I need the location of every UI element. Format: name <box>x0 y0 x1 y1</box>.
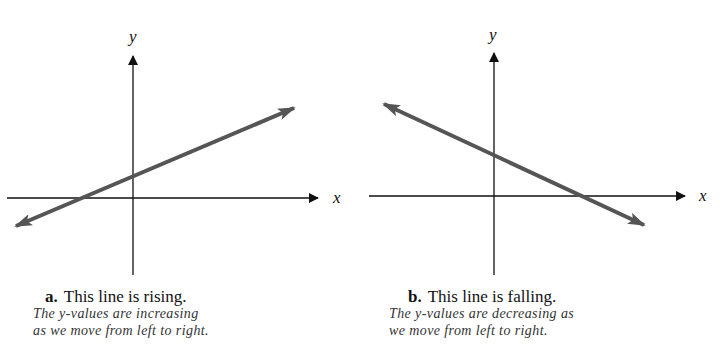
rising-line <box>16 108 294 226</box>
panel-a-graph: x y <box>7 27 341 275</box>
diagram-canvas: x y x y <box>0 0 720 280</box>
caption-a-desc-line1: The y-values are increasing <box>33 305 209 322</box>
y-axis-label: y <box>487 25 497 44</box>
falling-line <box>384 104 644 225</box>
x-axis-label: x <box>698 186 707 205</box>
caption-b: b.This line is falling. The y-values are… <box>389 288 574 339</box>
x-axis-label: x <box>332 188 341 207</box>
caption-b-letter: b. <box>408 287 422 306</box>
caption-b-desc-line1: The y-values are decreasing as <box>389 305 574 322</box>
caption-a-title: a.This line is rising. <box>33 288 209 305</box>
caption-a-desc-line2: as we move from left to right. <box>33 322 209 339</box>
y-axis-label: y <box>127 27 137 46</box>
caption-b-title: b.This line is falling. <box>389 288 574 305</box>
caption-a: a.This line is rising. The y-values are … <box>33 288 209 339</box>
caption-a-letter: a. <box>45 287 58 306</box>
caption-b-desc-line2: we move from left to right. <box>389 322 574 339</box>
panel-b-graph: x y <box>369 25 707 275</box>
